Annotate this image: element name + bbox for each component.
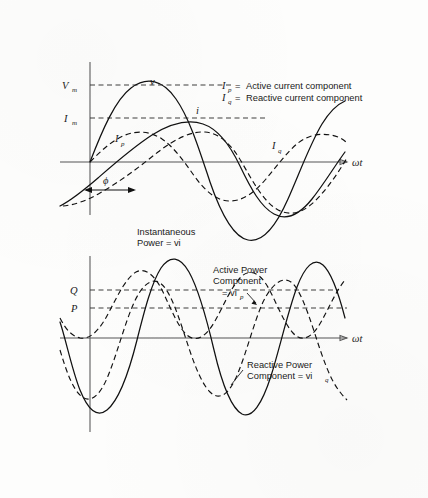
legend-symbol-iq: I bbox=[221, 92, 226, 103]
annotation-active-power-subscript: p bbox=[239, 293, 244, 301]
top-plot-level-label-vm: V bbox=[62, 80, 70, 91]
annotation-reactive-power-line2: Component = vi bbox=[247, 371, 312, 381]
legend-equals-iq: = bbox=[235, 93, 240, 103]
annotation-active-power-line3: = vi bbox=[222, 288, 237, 298]
legend-text-iq: Reactive current component bbox=[246, 93, 363, 103]
instantaneous-power-note-line1: Instantaneous bbox=[137, 227, 196, 237]
annotation-reactive-power-line1: Reactive Power bbox=[247, 360, 312, 370]
curve-sublabel-ip: p bbox=[120, 140, 125, 148]
curve-current bbox=[60, 122, 345, 217]
legend-entry-iq: I q = Reactive current component bbox=[221, 92, 363, 106]
legend-entry-ip: I p = Active current component bbox=[221, 80, 352, 94]
legend-symbol-ip: I bbox=[221, 80, 226, 91]
top-plot-axis-label: ωt bbox=[352, 157, 363, 168]
bottom-plot-level-label-q: Q bbox=[70, 285, 78, 296]
bottom-plot-axis-label: ωt bbox=[352, 333, 363, 344]
legend-text-ip: Active current component bbox=[246, 81, 352, 91]
top-plot-level-sublabel-im: m bbox=[72, 119, 77, 127]
curve-voltage bbox=[90, 81, 345, 240]
legend: I p = Active current component I q = Rea… bbox=[221, 80, 363, 106]
legend-subscript-iq: q bbox=[228, 98, 232, 106]
annotation-reactive-power: Reactive Power Component = vi q bbox=[231, 360, 329, 385]
bottom-plot-level-label-p: P bbox=[70, 303, 78, 314]
curve-sublabel-iq: q bbox=[278, 147, 282, 155]
curve-reactive-current-component bbox=[63, 132, 347, 213]
curve-label-i: i bbox=[196, 105, 199, 116]
annotation-reactive-power-leader bbox=[231, 370, 243, 385]
top-plot-level-sublabel-vm: m bbox=[72, 86, 77, 94]
annotation-active-power-line1: Active Power bbox=[213, 265, 267, 275]
top-plot-level-label-im: I bbox=[63, 113, 68, 124]
annotation-reactive-power-subscript: q bbox=[325, 376, 329, 384]
curve-label-iq: I bbox=[271, 140, 276, 151]
legend-subscript-ip: p bbox=[227, 86, 232, 94]
annotation-active-power: Active Power Component = vi p bbox=[213, 265, 267, 305]
annotation-active-power-line2: Component bbox=[213, 276, 261, 286]
phase-angle-label: ϕ bbox=[103, 175, 109, 186]
curve-label-v: v bbox=[150, 76, 155, 87]
instantaneous-power-note: Instantaneous Power = vi bbox=[137, 227, 196, 248]
instantaneous-power-note-line2: Power = vi bbox=[137, 238, 181, 248]
ac-power-waveform-figure: V m I m v i I p I q ωt ϕ Instantaneous P… bbox=[0, 0, 428, 498]
curve-label-ip: I bbox=[114, 133, 119, 144]
curve-reactive-power-component bbox=[60, 280, 347, 400]
legend-equals-ip: = bbox=[235, 81, 240, 91]
curve-instantaneous-power bbox=[60, 259, 345, 415]
bottom-plot: Q P ωt Active Power Component = vi p Rea… bbox=[60, 256, 363, 432]
